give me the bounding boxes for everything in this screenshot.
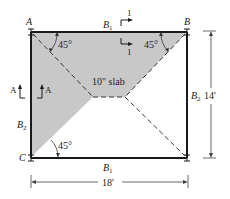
slab-diagram: 45° 45° 45° A B C B1 B1 B2 B2 10" slab 1… <box>0 0 230 199</box>
beam-label-top: B1 <box>103 19 113 32</box>
section-1-label-bottom: 1 <box>127 47 132 57</box>
dimension-width-arrow-right <box>183 180 188 184</box>
beam-label-bottom: B1 <box>103 162 113 175</box>
dimension-width-arrow-left <box>31 180 36 184</box>
section-1-arrowhead-top <box>128 18 133 22</box>
section-a-arrowhead-left <box>18 84 22 89</box>
dimension-height-arrow-top <box>209 31 213 36</box>
section-a-label-left: A <box>10 85 17 95</box>
angle-label-top-left: 45° <box>58 39 72 50</box>
corner-label-b: B <box>184 16 190 27</box>
section-a-label-right: A <box>45 85 52 95</box>
beam-label-right: B2 <box>191 90 201 103</box>
angle-label-bottom-left: 45° <box>58 140 72 151</box>
angle-label-top-right: 45° <box>144 39 158 50</box>
section-1-marker-top <box>121 20 129 26</box>
corner-label-c: C <box>19 152 26 163</box>
beam-label-left: B2 <box>17 119 27 132</box>
section-1-label-top: 1 <box>127 8 132 18</box>
slab-label: 10" slab <box>92 76 125 87</box>
corner-label-a: A <box>25 16 33 27</box>
dimension-width-label: 18' <box>102 177 114 188</box>
dimension-height-label: 14' <box>204 90 216 101</box>
dimension-height-arrow-bottom <box>209 153 213 158</box>
section-a-marker-left <box>20 88 25 98</box>
shaded-tributary-area <box>31 32 187 157</box>
